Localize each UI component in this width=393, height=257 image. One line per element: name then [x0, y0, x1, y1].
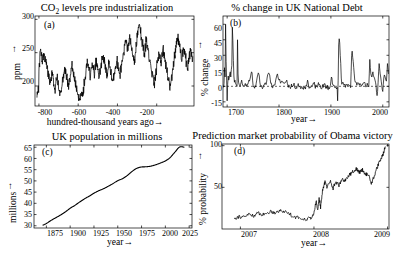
panel-c-plot [0, 129, 196, 257]
figure-container: CO2 levels pre industrialization (a) 300… [0, 0, 393, 257]
panel-b: % change in UK National Debt (b) 60 45 3… [196, 0, 393, 129]
panel-d: Prediction market probability of Obama v… [196, 129, 393, 257]
panel-a: CO2 levels pre industrialization (a) 300… [0, 0, 196, 129]
panel-d-plot [196, 129, 393, 257]
panel-c: UK population in millions (c) 65 60 55 5… [0, 129, 196, 257]
panel-b-plot [196, 0, 393, 129]
panel-a-plot [0, 0, 196, 129]
